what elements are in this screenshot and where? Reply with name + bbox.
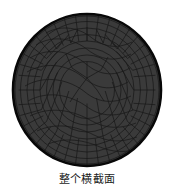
mesh-svg bbox=[0, 0, 174, 172]
cross-section-figure: 整个横截面 bbox=[0, 0, 174, 190]
figure-caption: 整个横截面 bbox=[0, 173, 174, 187]
mesh-diagram bbox=[0, 0, 174, 172]
